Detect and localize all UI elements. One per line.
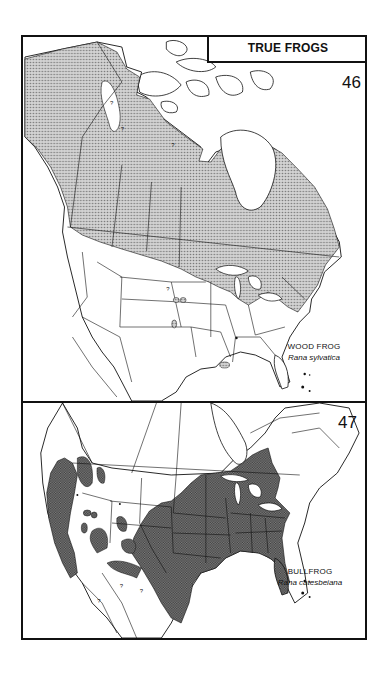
species-caption: BULLFROG Rana catesbeiana [255,566,365,588]
north-america-map-bullfrog: ? ? ? [23,403,365,638]
common-name: WOOD FROG [259,341,365,352]
map-number: 46 [342,73,361,93]
scientific-name: Rana sylvatica [259,352,365,363]
hudson-bay [211,403,247,464]
range-map-plate: ? ? ? ? TRUE FROGS 46 WOOD FROG Rana syl… [21,35,367,640]
section-title: TRUE FROGS [207,37,365,63]
species-caption: WOOD FROG Rana sylvatica [259,341,365,363]
map-number: 47 [338,413,357,433]
map-panel-46: ? ? ? ? TRUE FROGS 46 WOOD FROG Rana syl… [23,37,365,401]
map-panel-47: ? ? ? 47 BULLFROG Rana catesbeiana [23,403,365,638]
caribbean-islands [301,373,310,392]
common-name: BULLFROG [255,566,365,577]
record-dot [235,337,237,339]
scientific-name: Rana catesbeiana [255,577,365,588]
